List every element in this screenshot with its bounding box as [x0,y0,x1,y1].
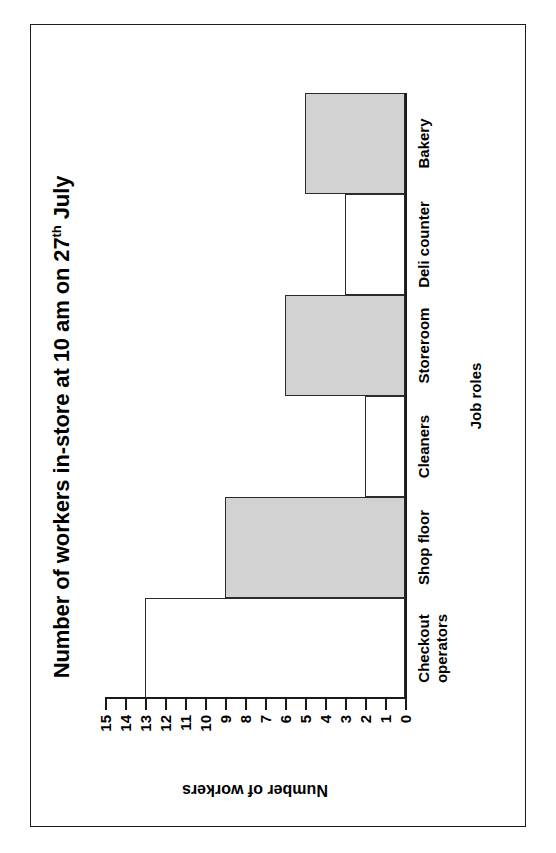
value-tick-2: 2 [365,699,367,710]
category-label-1: Checkoutoperators [415,598,451,699]
value-tick-label-5: 5 [296,715,316,723]
chart-title-main: Number of workers in-store at 10 am on 2… [49,237,74,678]
value-tick-label-1: 1 [376,715,396,723]
chart-title-ordinal-suffix: th [49,225,64,237]
value-tick-label-8: 8 [236,715,256,723]
bar-2 [225,497,405,598]
value-tick-11: 11 [185,699,187,710]
value-tick-12: 12 [165,699,167,710]
bar-chart: Number of workers in-store at 10 am on 2… [43,37,513,817]
value-tick-8: 8 [245,699,247,710]
value-tick-label-13: 13 [136,715,156,732]
bar-3 [365,396,405,497]
category-label-3: Cleaners [415,396,433,497]
value-tick-label-2: 2 [356,715,376,723]
chart-title-tail: July [49,175,74,225]
bar-6 [305,93,405,194]
value-tick-0: 0 [405,699,407,710]
value-tick-5: 5 [305,699,307,710]
value-tick-label-9: 9 [216,715,236,723]
category-label-line: Cleaners [415,396,433,497]
category-label-line: Storeroom [415,295,433,396]
bar-4 [285,295,405,396]
value-tick-label-3: 3 [336,715,356,723]
category-label-line: Bakery [415,93,433,194]
value-tick-15: 15 [105,699,107,710]
value-tick-label-7: 7 [256,715,276,723]
category-label-6: Bakery [415,93,433,194]
category-label-line: Shop floor [415,497,433,598]
value-tick-14: 14 [125,699,127,710]
value-tick-label-0: 0 [396,715,416,723]
category-label-line: Checkout [415,598,433,699]
chart-title: Number of workers in-store at 10 am on 2… [49,37,75,817]
value-tick-label-15: 15 [96,715,116,732]
category-label-line: operators [433,598,451,699]
value-tick-label-12: 12 [156,715,176,732]
value-tick-1: 1 [385,699,387,710]
value-axis-title: Number of workers [105,777,405,799]
value-tick-label-6: 6 [276,715,296,723]
value-tick-7: 7 [265,699,267,710]
value-tick-label-14: 14 [116,715,136,732]
value-tick-13: 13 [145,699,147,710]
category-label-5: Deli counter [415,194,433,295]
value-tick-3: 3 [345,699,347,710]
value-tick-10: 10 [205,699,207,710]
bar-1 [145,598,405,699]
value-tick-9: 9 [225,699,227,710]
value-tick-6: 6 [285,699,287,710]
value-tick-label-4: 4 [316,715,336,723]
value-axis-line [105,697,405,699]
category-label-line: Deli counter [415,194,433,295]
value-tick-label-10: 10 [196,715,216,732]
plot-area: 0123456789101112131415 [105,93,405,699]
value-tick-4: 4 [325,699,327,710]
category-label-2: Shop floor [415,497,433,598]
chart-page: Number of workers in-store at 10 am on 2… [0,0,556,853]
bar-5 [345,194,405,295]
category-axis-line [405,93,407,699]
category-label-4: Storeroom [415,295,433,396]
value-tick-label-11: 11 [176,715,196,731]
category-axis-title: Job roles [467,93,484,699]
